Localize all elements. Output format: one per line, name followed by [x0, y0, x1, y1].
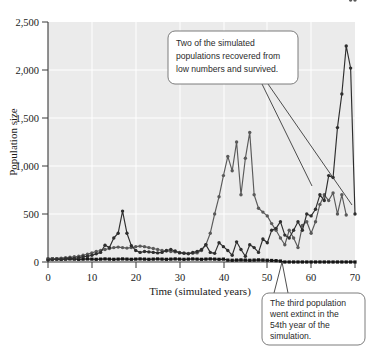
ytick-2500: 2,500	[15, 17, 39, 28]
data-point	[134, 249, 137, 252]
data-point	[213, 252, 216, 255]
data-point	[90, 258, 93, 261]
data-point	[253, 258, 256, 261]
data-point	[345, 260, 348, 263]
data-point	[59, 258, 62, 261]
data-point	[244, 258, 247, 261]
data-point	[283, 243, 286, 246]
data-point	[125, 258, 128, 261]
data-point	[345, 213, 348, 216]
data-point	[327, 199, 330, 202]
data-point	[134, 258, 137, 261]
data-point	[209, 232, 212, 235]
data-point	[261, 210, 264, 213]
data-point	[222, 245, 225, 248]
data-point	[174, 257, 177, 260]
data-point	[301, 229, 304, 232]
callout-extinct-line-4: simulation.	[270, 331, 311, 341]
data-point	[108, 258, 111, 261]
data-point	[257, 207, 260, 210]
data-point	[116, 245, 119, 248]
data-point	[86, 255, 89, 258]
data-point	[147, 250, 150, 253]
xtick-0: 0	[45, 272, 50, 283]
data-point	[191, 257, 194, 260]
data-point	[248, 243, 251, 246]
data-point	[296, 220, 299, 223]
data-point	[309, 232, 312, 235]
data-point	[239, 258, 242, 261]
data-point	[305, 212, 308, 215]
data-point	[209, 257, 212, 260]
data-point	[112, 246, 115, 249]
ytick-0: 0	[34, 257, 39, 268]
data-point	[353, 212, 356, 215]
data-point	[178, 258, 181, 261]
data-point	[248, 131, 251, 134]
data-point	[349, 260, 352, 263]
data-point	[353, 260, 356, 263]
data-point	[274, 227, 277, 230]
data-point	[257, 258, 260, 261]
data-point	[305, 260, 308, 263]
data-point	[314, 260, 317, 263]
xtick-60: 60	[306, 272, 317, 283]
population-simulation-chart: 2,500 2,000 1,500 1,000 500 0 0 10 20 30…	[0, 0, 368, 352]
data-point	[266, 241, 269, 244]
data-point	[296, 260, 299, 263]
data-point	[257, 251, 260, 254]
data-point	[248, 259, 251, 262]
data-point	[209, 251, 212, 254]
data-point	[147, 246, 150, 249]
chart-svg: 2,500 2,000 1,500 1,000 500 0 0 10 20 30…	[0, 0, 368, 352]
data-point	[288, 260, 291, 263]
data-point	[165, 249, 168, 252]
data-point	[279, 236, 282, 239]
data-point	[178, 251, 181, 254]
y-axis-title: Population size	[7, 108, 19, 176]
data-point	[222, 174, 225, 177]
data-point	[222, 258, 225, 261]
data-point	[138, 251, 141, 254]
data-point	[160, 258, 163, 261]
data-point	[318, 203, 321, 206]
callout-recovered-line-3: low numbers and survived.	[176, 64, 278, 74]
data-point	[252, 193, 255, 196]
data-point	[318, 260, 321, 263]
data-point	[327, 174, 330, 177]
data-point	[64, 257, 67, 260]
data-point	[231, 254, 234, 257]
data-point	[239, 193, 242, 196]
data-point	[235, 140, 238, 143]
data-point	[152, 251, 155, 254]
data-point	[95, 252, 98, 255]
data-point	[46, 258, 49, 261]
data-point	[112, 258, 115, 261]
data-point	[147, 258, 150, 261]
data-point	[310, 260, 313, 263]
data-point	[55, 257, 58, 260]
data-point	[139, 257, 142, 260]
data-point	[231, 259, 234, 262]
data-point	[138, 244, 141, 247]
data-point	[309, 214, 312, 217]
data-point	[182, 252, 185, 255]
data-point	[292, 260, 295, 263]
data-point	[235, 258, 238, 261]
data-point	[130, 258, 133, 261]
data-point	[283, 233, 286, 236]
data-point	[125, 246, 128, 249]
callout-recovered-populations: Two of the simulated populations recover…	[168, 31, 298, 84]
data-point	[156, 248, 159, 251]
data-point	[152, 258, 155, 261]
data-point	[261, 258, 264, 261]
data-point	[90, 254, 93, 257]
data-point	[103, 248, 106, 251]
data-point	[252, 246, 255, 249]
data-point	[116, 232, 119, 235]
data-point	[266, 214, 269, 217]
data-point	[336, 212, 339, 215]
data-point	[200, 248, 203, 251]
data-point	[121, 257, 124, 260]
data-point	[323, 260, 326, 263]
